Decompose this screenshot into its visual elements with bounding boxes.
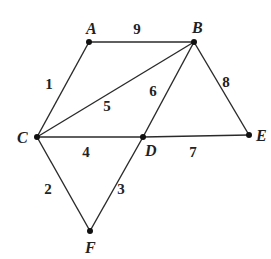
vertex-b <box>191 39 197 45</box>
graph-canvas: 915684723ABCDEF <box>0 0 271 259</box>
edge-weight-b-d: 6 <box>149 83 157 99</box>
edge-weight-d-f: 3 <box>117 181 125 197</box>
edge-weight-b-c: 5 <box>103 98 111 114</box>
vertex-f <box>87 228 93 234</box>
edge-weight-c-f: 2 <box>44 181 52 197</box>
vertex-a <box>86 39 92 45</box>
vertex-e <box>246 132 252 138</box>
edge-b-c <box>37 42 194 137</box>
vertex-label-e: E <box>255 127 267 144</box>
edge-d-e <box>143 135 249 137</box>
edge-weight-b-e: 8 <box>222 74 230 90</box>
vertex-label-b: B <box>191 19 203 36</box>
vertex-c <box>34 134 40 140</box>
vertex-label-d: D <box>144 142 157 159</box>
edge-weight-c-d: 4 <box>82 144 90 160</box>
edge-weight-a-c: 1 <box>45 76 53 92</box>
edge-weight-a-b: 9 <box>133 21 141 37</box>
vertex-label-c: C <box>17 129 28 146</box>
vertex-d <box>140 134 146 140</box>
edge-weight-d-e: 7 <box>189 144 197 160</box>
vertex-label-a: A <box>85 20 97 37</box>
vertex-label-f: F <box>84 239 96 256</box>
graph-diagram: 915684723ABCDEF <box>0 0 271 259</box>
